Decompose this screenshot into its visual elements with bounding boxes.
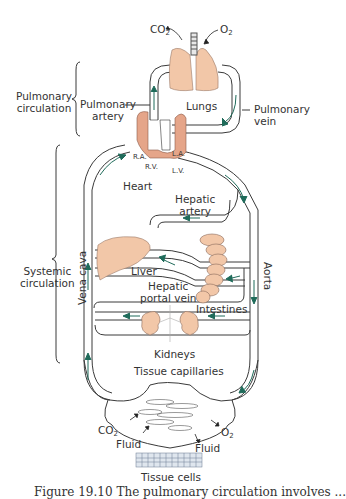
right-ventricle-label: R.V. [145, 163, 158, 171]
systemic-bracket [52, 145, 60, 363]
figure-caption: Figure 19.10 The pulmonary circulation i… [34, 485, 346, 499]
intestines-label: Intestines [196, 303, 247, 315]
pulmonary-bracket [72, 62, 80, 136]
trachea [191, 33, 197, 55]
lungs-label: Lungs [186, 100, 217, 112]
left-atrium-label: L.A. [172, 150, 185, 158]
liver-label: Liver [131, 265, 157, 277]
hepatic-artery-label: Hepatic artery [175, 193, 215, 217]
kidneys-label: Kidneys [154, 348, 195, 360]
hepatic-portal-vein-label: Hepatic portal vein [140, 280, 196, 304]
pulmonary-vein-label: Pulmonary vein [254, 103, 310, 127]
fluid-left-label: Fluid [116, 438, 141, 450]
vena-cava-label: Vena cava [76, 251, 88, 305]
aorta-label: Aorta [262, 262, 274, 290]
o2-bottom-label: O2 [221, 426, 234, 442]
tissue-capillaries-label: Tissue capillaries [134, 365, 224, 377]
systemic-circulation-label: Systemic circulation [20, 265, 75, 289]
heart-label: Heart [123, 180, 152, 192]
tissue-cells [136, 453, 202, 467]
pulmonary-circulation-label: Pulmonary circulation [16, 90, 72, 114]
left-ventricle-label: L.V. [172, 167, 184, 175]
fluid-right-label: Fluid [195, 442, 220, 454]
o2-top-label: O2 [220, 23, 233, 39]
pulmonary-artery-label: Pulmonary artery [80, 98, 136, 122]
co2-top-label: CO2 [150, 23, 170, 39]
right-atrium-label: R.A. [133, 153, 147, 161]
tissue-cells-label: Tissue cells [141, 471, 201, 483]
kidneys [142, 305, 199, 342]
pulmonary-artery-vessel [150, 65, 170, 120]
